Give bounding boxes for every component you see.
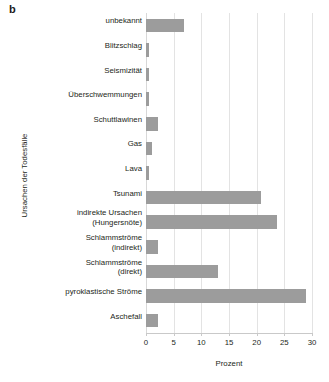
y-category-label: Schlammströme(indirekt) xyxy=(4,233,142,252)
x-tick-label: 5 xyxy=(164,338,184,347)
bar xyxy=(146,314,158,328)
bar xyxy=(146,142,152,156)
y-category-label: Tsunami xyxy=(4,189,142,199)
y-category-label-line: Seismizität xyxy=(4,66,142,76)
bar xyxy=(146,19,184,33)
x-tick-label: 15 xyxy=(219,338,239,347)
y-category-label-line: Schuttlawinen xyxy=(4,115,142,125)
bar xyxy=(146,240,158,254)
bar xyxy=(146,215,277,229)
x-axis-title: Prozent xyxy=(146,359,312,368)
y-category-label-line: Überschwemmungen xyxy=(4,90,142,100)
gridline-10 xyxy=(201,13,202,333)
x-tick-label: 25 xyxy=(274,338,294,347)
y-category-label: Schlammströme(direkt) xyxy=(4,258,142,277)
tick-mark-0 xyxy=(146,333,147,336)
y-category-label-line: Schlammströme xyxy=(4,233,142,243)
y-category-label: Schuttlawinen xyxy=(4,115,142,125)
gridline-25 xyxy=(284,13,285,333)
tick-mark-20 xyxy=(257,333,258,336)
figure-panel-b: b Ursachen der Todesfälle 051015202530 u… xyxy=(0,0,329,382)
y-category-label: Überschwemmungen xyxy=(4,90,142,100)
y-category-label-line: (Hungersnöte) xyxy=(4,218,142,228)
y-category-label: Gas xyxy=(4,139,142,149)
y-category-label-line: unbekannt xyxy=(4,16,142,26)
y-category-label: Aschefall xyxy=(4,312,142,322)
y-category-label-line: Tsunami xyxy=(4,189,142,199)
y-category-label-line: (indirekt) xyxy=(4,243,142,253)
gridline-20 xyxy=(257,13,258,333)
tick-mark-10 xyxy=(201,333,202,336)
x-tick-label: 20 xyxy=(247,338,267,347)
y-category-label: Seismizität xyxy=(4,66,142,76)
bar xyxy=(146,289,306,303)
bar xyxy=(146,92,149,106)
tick-mark-15 xyxy=(229,333,230,336)
tick-mark-25 xyxy=(284,333,285,336)
x-tick-label: 30 xyxy=(302,338,322,347)
y-category-label-line: indirekte Ursachen xyxy=(4,208,142,218)
gridline-30 xyxy=(312,13,313,333)
y-category-label-line: Gas xyxy=(4,139,142,149)
y-category-label-line: Schlammströme xyxy=(4,258,142,268)
y-category-label-line: Blitzschlag xyxy=(4,41,142,51)
tick-mark-30 xyxy=(312,333,313,336)
y-category-label-line: Aschefall xyxy=(4,312,142,322)
bar xyxy=(146,117,158,131)
panel-letter: b xyxy=(9,3,16,15)
plot-area xyxy=(146,13,312,333)
bar xyxy=(146,68,149,82)
y-category-label: Blitzschlag xyxy=(4,41,142,51)
tick-mark-5 xyxy=(174,333,175,336)
y-category-label-line: Lava xyxy=(4,164,142,174)
y-category-label: pyroklastische Ströme xyxy=(4,287,142,297)
bar xyxy=(146,191,261,205)
x-tick-label: 10 xyxy=(191,338,211,347)
y-category-label: indirekte Ursachen(Hungersnöte) xyxy=(4,208,142,227)
y-category-label: Lava xyxy=(4,164,142,174)
bar xyxy=(146,43,149,57)
gridline-15 xyxy=(229,13,230,333)
y-category-label-line: pyroklastische Ströme xyxy=(4,287,142,297)
gridline-5 xyxy=(174,13,175,333)
y-category-label-line: (direkt) xyxy=(4,267,142,277)
y-category-label: unbekannt xyxy=(4,16,142,26)
bar xyxy=(146,166,149,180)
x-tick-label: 0 xyxy=(136,338,156,347)
bar xyxy=(146,265,218,279)
